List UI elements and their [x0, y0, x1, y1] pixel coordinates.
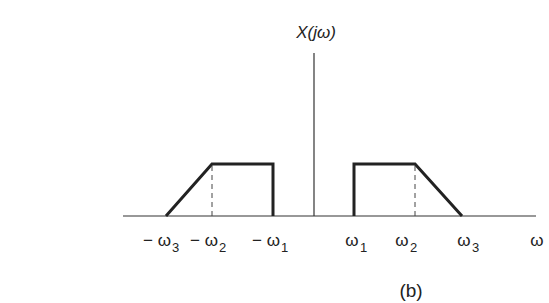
- tick-label-neg-w2: − ω 2: [190, 231, 226, 255]
- tick-label-subscript: 1: [360, 240, 367, 255]
- tick-label-main: ω: [395, 231, 408, 250]
- tick-label-subscript: 2: [219, 240, 226, 255]
- tick-label-main: ω: [457, 231, 470, 250]
- spectrum-diagram: X(jω) − ω 3 − ω 2 − ω 1 ω 1 ω 2 ω 3 ω (b…: [0, 0, 549, 303]
- tick-label-main: − ω: [190, 231, 218, 250]
- negative-frequency-band: [166, 164, 273, 216]
- tick-label-neg-w3: − ω 3: [143, 231, 179, 255]
- tick-label-subscript: 3: [472, 240, 479, 255]
- tick-label-main: ω: [345, 231, 358, 250]
- x-axis-label: ω: [530, 231, 543, 250]
- tick-label-main: − ω: [252, 231, 280, 250]
- tick-label-neg-w1: − ω 1: [252, 231, 288, 255]
- tick-label-w3: ω 3: [457, 231, 479, 255]
- positive-frequency-band: [354, 164, 462, 216]
- tick-label-main: − ω: [143, 231, 171, 250]
- tick-label-w2: ω 2: [395, 231, 417, 255]
- tick-label-subscript: 2: [410, 240, 417, 255]
- tick-label-subscript: 1: [281, 240, 288, 255]
- y-axis-label: X(jω): [295, 23, 336, 42]
- figure-caption: (b): [399, 280, 422, 301]
- tick-label-subscript: 3: [172, 240, 179, 255]
- tick-label-w1: ω 1: [345, 231, 367, 255]
